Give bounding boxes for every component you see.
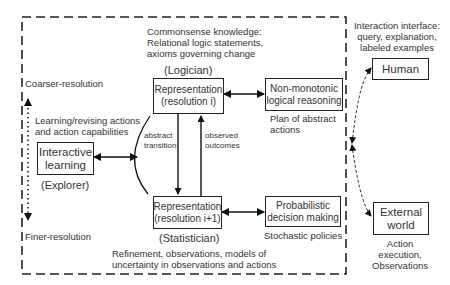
probabilistic-decision-node: Probabilistic decision making (265, 196, 341, 227)
logician-label: (Logician) (164, 64, 212, 76)
interaction-interface-note: Interaction interface: query, explanatio… (347, 20, 447, 53)
explorer-label: (Explorer) (41, 179, 89, 191)
commonsense-note: Commonsense knowledge: Relational logic … (147, 26, 263, 59)
external-world-node: External world (373, 202, 429, 235)
nonmonotonic-reasoning-node: Non-monotonic logical reasoning (265, 78, 343, 111)
interactive-learning-node: Interactive learning (37, 142, 94, 175)
action-execution-note: Action execution, Observations (350, 238, 450, 271)
finer-resolution-label: Finer-resolution (25, 231, 91, 242)
statistician-label: (Statistician) (159, 232, 220, 244)
learning-note: Learning/revising actions and action cap… (35, 115, 140, 137)
human-node: Human (372, 58, 429, 80)
observed-outcomes-label: observed outcomes (205, 131, 240, 151)
coarser-resolution-label: Coarser-resolution (25, 78, 103, 89)
plan-note: Plan of abstract actions (270, 113, 336, 135)
representation-coarse-node: Representation (resolution i) (153, 78, 224, 114)
refinement-note: Refinement, observations, models of unce… (112, 248, 276, 270)
abstract-transition-label: abstract transition (144, 131, 176, 151)
stochastic-policies-note: Stochastic policies (264, 230, 342, 241)
representation-fine-node: Representation (resolution i+1) (153, 196, 222, 229)
